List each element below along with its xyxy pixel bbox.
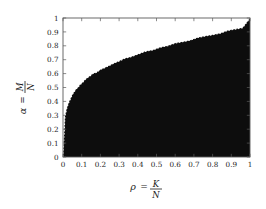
- y-tick-label: 0.1: [47, 139, 58, 148]
- y-axis-label-equals: =: [18, 96, 28, 104]
- y-axis-label-numerator: M: [15, 82, 25, 92]
- x-axis-label-equals: =: [140, 182, 148, 192]
- x-tick-label: 0.1: [76, 160, 87, 169]
- y-tick-label: 0.2: [47, 125, 58, 134]
- x-tick-label: 1: [248, 160, 253, 169]
- y-tick-label: 1: [54, 14, 59, 23]
- x-tick-label: 0.8: [207, 160, 219, 169]
- x-tick-label: 0.3: [113, 160, 125, 169]
- y-tick-label: 0.8: [47, 41, 59, 50]
- plot-area: [63, 18, 250, 157]
- y-tick-label: 0.6: [47, 69, 59, 78]
- y-tick-labels: 00.10.20.30.40.50.60.70.80.91: [47, 14, 59, 162]
- x-tick-label: 0.7: [188, 160, 200, 169]
- x-tick-label: 0.9: [226, 160, 238, 169]
- y-tick-label: 0: [54, 153, 59, 162]
- y-tick-label: 0.9: [47, 28, 59, 37]
- x-tick-label: 0.6: [169, 160, 181, 169]
- x-axis-label-numerator: K: [152, 179, 160, 189]
- y-tick-label: 0.5: [47, 83, 59, 92]
- x-tick-label: 0.5: [151, 160, 163, 169]
- x-axis-label-denominator: N: [151, 190, 160, 200]
- y-tick-label: 0.3: [47, 111, 59, 120]
- y-tick-label: 0.7: [47, 55, 59, 64]
- y-axis-label-symbol: α: [17, 107, 28, 114]
- chart-figure: 00.10.20.30.40.50.60.70.80.91 00.10.20.3…: [0, 0, 266, 209]
- x-tick-label: 0.4: [132, 160, 144, 169]
- x-axis-label-symbol: ρ: [129, 181, 136, 192]
- x-tick-label: 0.2: [95, 160, 106, 169]
- y-tick-label: 0.4: [47, 97, 59, 106]
- x-tick-label: 0: [61, 160, 66, 169]
- chart-svg: 00.10.20.30.40.50.60.70.80.91 00.10.20.3…: [0, 0, 266, 209]
- y-axis-label-denominator: N: [26, 83, 36, 92]
